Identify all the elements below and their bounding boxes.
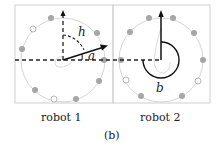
robot-1-label: robot 1 xyxy=(41,111,81,124)
robot-1-panel xyxy=(15,10,113,102)
angle-a-label: a xyxy=(88,49,95,63)
panel-frame-robot-1 xyxy=(15,5,113,103)
robot-2-label: robot 2 xyxy=(140,111,180,124)
angle-h-label: h xyxy=(78,25,86,39)
figure-caption: (b) xyxy=(104,129,120,142)
robot-diagram xyxy=(0,0,221,150)
angle-b-label: b xyxy=(156,81,164,95)
